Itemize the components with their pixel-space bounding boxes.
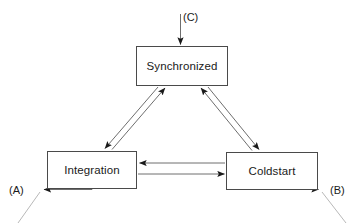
state-diagram: Synchronized Integration Coldstart (A) (… xyxy=(0,0,360,223)
port-label-a: (A) xyxy=(9,184,24,196)
edge-integration-to-synchronized xyxy=(112,88,165,150)
node-synchronized[interactable]: Synchronized xyxy=(136,46,228,86)
node-integration[interactable]: Integration xyxy=(47,151,137,189)
edge-synchronized-to-coldstart xyxy=(208,87,259,150)
node-synchronized-label: Synchronized xyxy=(147,60,218,72)
node-integration-label: Integration xyxy=(64,164,119,176)
port-label-c: (C) xyxy=(183,11,198,23)
port-label-b: (B) xyxy=(330,184,345,196)
edge-coldstart-to-synchronized xyxy=(201,88,252,151)
edge-synchronized-to-integration xyxy=(105,87,158,149)
node-coldstart-label: Coldstart xyxy=(249,165,296,177)
node-coldstart[interactable]: Coldstart xyxy=(226,152,318,190)
